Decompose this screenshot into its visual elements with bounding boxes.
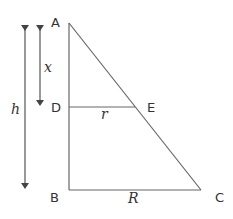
label-e: E (147, 100, 155, 115)
label-c: C (215, 190, 224, 205)
label-d: D (51, 100, 61, 115)
triangle-diagram: A D E B C x h r R (0, 0, 233, 219)
label-b: B (50, 190, 59, 205)
label-R: R (127, 190, 139, 206)
label-x: x (44, 59, 52, 75)
label-h: h (11, 101, 20, 117)
label-a: A (51, 15, 60, 30)
label-r: r (101, 106, 109, 122)
